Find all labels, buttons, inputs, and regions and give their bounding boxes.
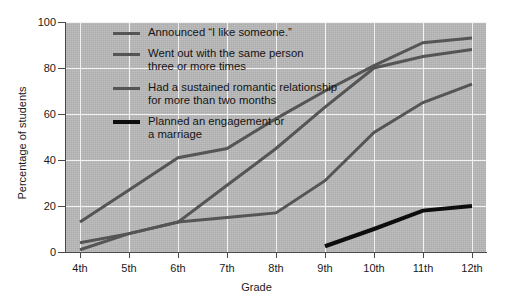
- legend-swatch-icon: [113, 32, 140, 35]
- x-axis-tick: [129, 252, 130, 258]
- legend-swatch-icon: [113, 87, 140, 90]
- y-axis-tick-label: 100: [30, 17, 56, 28]
- x-axis-tick: [227, 252, 228, 258]
- series-line-4: [325, 206, 472, 246]
- x-axis-tick-label: 8th: [256, 262, 296, 274]
- x-axis-tick-label: 11th: [403, 262, 443, 274]
- y-axis-tick-label: 80: [30, 63, 56, 74]
- x-axis-tick: [276, 252, 277, 258]
- x-axis-title: Grade: [0, 281, 513, 293]
- legend-label: Announced “I like someone.”: [148, 26, 363, 40]
- y-axis-tick-labels: 100806040200: [26, 0, 56, 304]
- x-axis-tick-label: 10th: [354, 262, 394, 274]
- x-axis-tick: [325, 252, 326, 258]
- y-axis-tick: [58, 114, 65, 115]
- x-axis-tick-label: 7th: [207, 262, 247, 274]
- y-axis-tick-label: 20: [30, 201, 56, 212]
- y-axis-tick: [58, 22, 65, 23]
- x-axis-tick-label: 6th: [158, 262, 198, 274]
- legend-label: Planned an engagement ora marriage: [148, 115, 363, 142]
- legend-label: Went out with the same personthree or mo…: [148, 47, 363, 74]
- x-axis-tick: [423, 252, 424, 258]
- y-axis-tick-label: 0: [30, 247, 56, 258]
- legend-item: Announced “I like someone.”: [113, 26, 363, 40]
- legend-swatch-icon: [113, 53, 140, 56]
- legend-item: Planned an engagement ora marriage: [113, 115, 363, 142]
- y-axis-title: Percentage of students: [16, 43, 28, 243]
- legend-swatch-icon: [113, 120, 140, 124]
- x-axis-tick-label: 12th: [452, 262, 492, 274]
- x-axis-tick: [374, 252, 375, 258]
- x-axis-tick-label: 4th: [60, 262, 100, 274]
- legend: Announced “I like someone.”Went out with…: [113, 26, 363, 149]
- x-axis-tick-label: 5th: [109, 262, 149, 274]
- legend-item: Went out with the same personthree or mo…: [113, 47, 363, 74]
- x-axis-tick: [472, 252, 473, 258]
- chart-root: 100806040200 4th5th6th7th8th9th10th11th1…: [0, 0, 513, 304]
- x-axis-tick: [80, 252, 81, 258]
- legend-item: Had a sustained romantic relationshipfor…: [113, 81, 363, 108]
- y-axis-tick: [58, 160, 65, 161]
- x-axis-tick: [178, 252, 179, 258]
- y-axis-tick: [58, 68, 65, 69]
- x-axis-tick-label: 9th: [305, 262, 345, 274]
- y-axis-tick-label: 60: [30, 109, 56, 120]
- y-axis-tick: [58, 206, 65, 207]
- legend-label: Had a sustained romantic relationshipfor…: [148, 81, 363, 108]
- y-axis-tick-label: 40: [30, 155, 56, 166]
- y-axis-tick: [58, 252, 65, 253]
